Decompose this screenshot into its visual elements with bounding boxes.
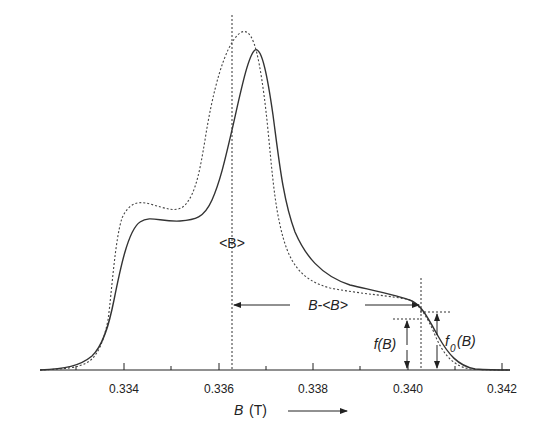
mean-b-annotation: <B> <box>219 235 245 251</box>
f-b-annotation: f(B) <box>374 319 420 368</box>
x-tick-label: 0.334 <box>109 382 139 396</box>
f0-label-arg: (B) <box>457 333 476 349</box>
x-tick-label: 0.340 <box>393 382 423 396</box>
x-tick-label: 0.336 <box>204 382 234 396</box>
x-axis: 0.334 0.336 0.338 0.340 0.342 <box>40 363 517 396</box>
x-tick-label: 0.342 <box>487 382 517 396</box>
f-b-label: f(B) <box>374 336 397 352</box>
b-minus-mean-label: B-<B> <box>308 297 348 313</box>
x-axis-unit: (T) <box>249 402 267 418</box>
x-tick-label: 0.338 <box>298 382 328 396</box>
f0-curve <box>40 32 510 370</box>
x-axis-variable: B <box>234 402 243 418</box>
epr-spectrum-chart: 0.334 0.336 0.338 0.340 0.342 B (T) <B> … <box>0 0 547 438</box>
b-minus-mean-annotation: B-<B> <box>234 297 419 313</box>
mean-b-label: <B> <box>219 235 245 251</box>
f0-label-subscript: 0 <box>450 343 456 354</box>
f-curve <box>40 50 510 370</box>
x-axis-title: B (T) <box>234 402 347 418</box>
